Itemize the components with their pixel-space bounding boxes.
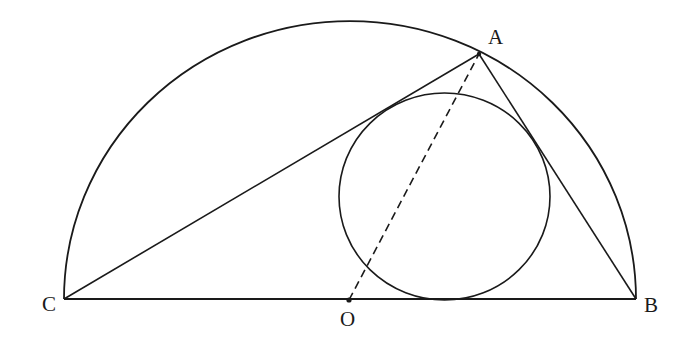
label-o: O: [340, 309, 355, 330]
segment-oa-dashed: [349, 54, 479, 300]
label-b: B: [644, 295, 658, 316]
semicircle-arc: [64, 21, 636, 299]
point-a-dot: [477, 52, 481, 56]
label-c: C: [42, 294, 56, 315]
point-o-dot: [346, 297, 351, 302]
inscribed-circle: [339, 93, 550, 300]
label-a: A: [488, 27, 503, 48]
geometry-figure: [0, 0, 686, 349]
segment-ca: [64, 54, 479, 299]
segment-ab: [479, 54, 636, 299]
